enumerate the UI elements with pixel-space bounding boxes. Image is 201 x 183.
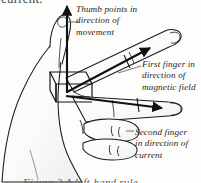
label-second-finger-line2: in direction of [135,138,188,149]
label-first-finger: First finger in direction of magnetic fi… [142,59,196,93]
figure-canvas: current. Thumb points in direction of mo… [0,0,201,183]
little-finger-curled [83,139,137,160]
thumb-nail [58,17,68,27]
knuckle-join-lower [80,120,83,134]
cut-text-bottom: Figure 2 A left-hand rule [23,176,138,183]
label-second-finger-line3: current [135,150,188,161]
label-second-finger-line1: Second finger [135,127,188,138]
label-second-finger: Second finger in direction of current [135,127,188,161]
label-thumb: Thumb points in direction of movement [76,4,137,38]
label-thumb-line3: movement [76,27,137,38]
palm-outline [2,38,82,182]
label-first-finger-line3: magnetic field [142,82,196,93]
label-thumb-line2: direction of [76,15,137,26]
second-finger-outline [72,96,182,122]
label-first-finger-line2: direction of [142,70,196,81]
label-first-finger-line1: First finger in [142,59,196,70]
cut-text-top: current. [1,0,43,7]
first-finger-arrow [67,48,150,92]
label-thumb-line1: Thumb points in [76,4,137,15]
